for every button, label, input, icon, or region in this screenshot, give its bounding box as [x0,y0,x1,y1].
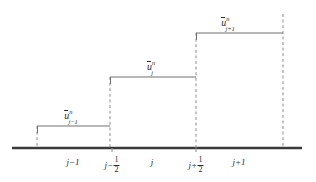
tick-label-j-minus-half: j− 1 2 [104,156,119,174]
fraction-numerator: 1 [198,156,204,164]
subscript-index: j+1 [225,25,234,32]
value-label-j-plus-1: unj+1 [221,17,239,31]
tick-text: j−1 [66,157,79,167]
tick-label-j-plus-1: j+1 [232,158,245,167]
overbar-rule [221,17,225,18]
tick-lead: j− [104,160,113,170]
overbar-rule [147,61,151,62]
cell-average-figure: unj−1 unj unj+1 j−1 j− 1 2 j j+ 1 2 j+1 [0,0,316,182]
figure-canvas [0,0,316,182]
fraction-denominator: 2 [114,166,120,174]
subscript-index: j [151,69,153,76]
tick-label-j-minus-1: j−1 [66,158,79,167]
superscript-n: n [152,59,155,66]
overbar-rule [64,110,68,111]
tick-lead: j+ [188,160,197,170]
value-label-j-minus-1: unj−1 [64,110,82,124]
tick-text: j [151,157,154,167]
tick-label-j: j [151,158,154,167]
tick-text: j+1 [232,157,245,167]
fraction-one-half: 1 2 [198,156,204,174]
fraction-denominator: 2 [198,166,204,174]
tick-label-j-plus-half: j+ 1 2 [188,156,203,174]
superscript-n: n [69,108,72,115]
fraction-one-half: 1 2 [114,156,120,174]
value-label-j: unj [147,61,157,75]
superscript-n: n [226,15,229,22]
subscript-index: j−1 [68,118,77,125]
fraction-numerator: 1 [114,156,120,164]
